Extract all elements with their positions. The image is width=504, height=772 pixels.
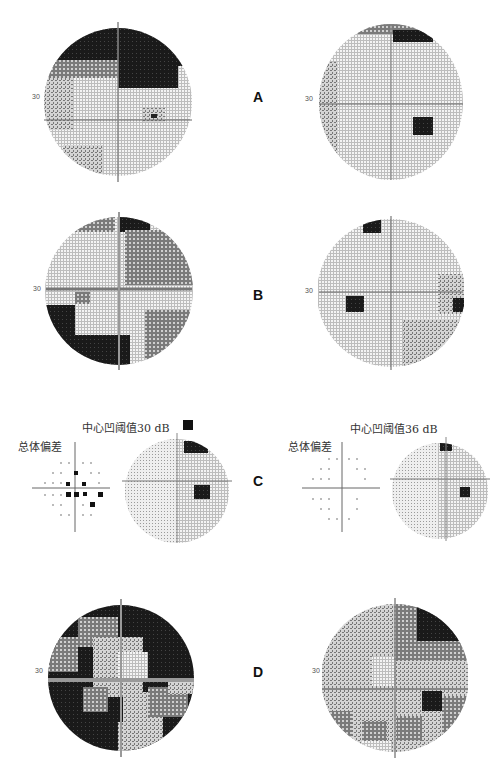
axis-label-30-a-left: 30 (32, 93, 40, 100)
visual-field-b-right (318, 214, 464, 372)
panel-label-d: D (253, 664, 263, 680)
panel-label-c: C (253, 473, 263, 489)
visual-field-a-left (43, 20, 193, 184)
visual-field-d-left (48, 597, 194, 759)
total-deviation-plot-c-right (300, 442, 382, 532)
axis-label-30-b-right: 30 (305, 287, 313, 294)
visual-field-b-left (45, 210, 193, 372)
total-deviation-plot-c-left (30, 442, 112, 532)
visual-field-a-right (318, 22, 464, 182)
axis-label-30-d-right: 30 (312, 667, 320, 674)
defect-legend-square (183, 420, 193, 430)
panel-label-b: B (253, 287, 263, 303)
axis-label-30-d-left: 30 (35, 667, 43, 674)
panel-label-a: A (253, 89, 263, 105)
visual-field-d-right (322, 596, 468, 760)
visual-field-c-right (390, 437, 490, 541)
foveal-threshold-title-right: 中心凹阈值36 dB (350, 420, 438, 436)
visual-field-c-left (122, 433, 232, 543)
axis-label-30-b-left: 30 (33, 285, 41, 292)
axis-label-30-a-right: 30 (305, 95, 313, 102)
